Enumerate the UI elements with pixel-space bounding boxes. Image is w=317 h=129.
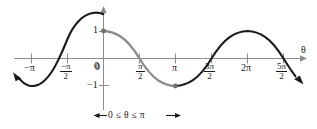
domain-left-arrowhead [94, 113, 100, 118]
x-axis-title-theta: θ [301, 45, 306, 55]
marker-min-at-pi [173, 84, 178, 89]
x-tick-label-neg-pi-over-2-denominator: 2 [60, 71, 72, 81]
x-tick-label-pi-over-2-denominator: 2 [136, 71, 145, 81]
x-tick-label-three-pi-over-2-denominator: 2 [204, 71, 215, 81]
x-tick-label-five-pi-over-2-denominator: 2 [276, 71, 287, 81]
x-tick-label-pi-over-2: π 2 [136, 62, 145, 82]
y-axis-arrowhead [100, 6, 106, 13]
y-tick-label-neg-one: −1 [87, 80, 98, 90]
x-tick-label-pi: π [172, 63, 177, 73]
x-tick-label-neg-pi: −π [24, 63, 35, 73]
x-tick-label-five-pi-over-2: 5π 2 [276, 62, 287, 82]
domain-annotation-text: 0 ≤ θ ≤ π [108, 110, 145, 120]
x-tick-label-two-pi: 2π [241, 63, 251, 73]
cosine-graph-figure: −π −π 2 0 π 2 π 3π 2 2π 5π 2 1 0 −1 θ 0 … [0, 0, 317, 129]
x-tick-label-neg-pi-over-2: −π 2 [60, 62, 72, 82]
y-tick-label-one: 1 [93, 25, 98, 35]
plot-canvas [0, 0, 317, 129]
marker-max-at-zero [101, 29, 106, 34]
y-tick-label-zero: 0 [94, 61, 99, 71]
x-tick-label-three-pi-over-2: 3π 2 [204, 62, 215, 82]
x-tick-label-five-pi-over-2-numerator: 5π [276, 62, 287, 71]
x-tick-label-neg-pi-over-2-numerator: −π [60, 62, 72, 71]
x-axis-arrowhead [300, 55, 307, 61]
x-tick-label-three-pi-over-2-numerator: 3π [204, 62, 215, 71]
domain-right-arrowhead [175, 113, 181, 118]
x-tick-label-pi-over-2-numerator: π [137, 62, 144, 71]
curve-left-black [13, 13, 104, 86]
